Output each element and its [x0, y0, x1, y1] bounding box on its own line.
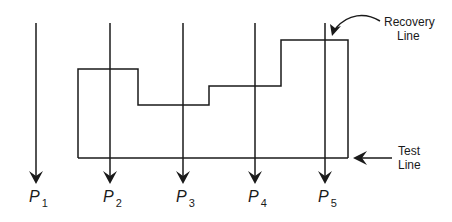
process-label: P3 — [176, 188, 195, 209]
process-label: P1 — [29, 188, 48, 209]
recovery-line — [78, 40, 348, 158]
process-p2: P2 — [103, 23, 122, 209]
arrowhead-icon — [330, 24, 341, 36]
process-label: P4 — [248, 188, 267, 209]
recovery-label-line1: Recovery — [384, 15, 435, 29]
process-label: P5 — [318, 188, 337, 209]
process-p4: P4 — [248, 23, 267, 209]
recovery-line-diagram: P1 P2 P3 P4 P5 Recovery Line Test Line — [0, 0, 452, 222]
process-p1: P1 — [29, 23, 48, 209]
recovery-line-annotation: Recovery Line — [330, 15, 435, 43]
test-label-line2: Line — [398, 158, 421, 172]
process-p5: P5 — [318, 23, 337, 209]
recovery-label-line2: Line — [397, 29, 420, 43]
process-label: P2 — [103, 188, 122, 209]
test-line-annotation: Test Line — [353, 144, 421, 172]
test-label-line1: Test — [398, 144, 421, 158]
curved-arrow-icon — [336, 16, 380, 28]
process-p3: P3 — [176, 23, 195, 209]
